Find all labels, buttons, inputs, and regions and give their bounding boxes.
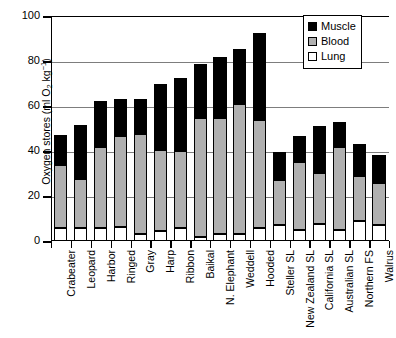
- bar-segment-lung: [273, 225, 286, 241]
- lung-swatch-icon: [308, 52, 317, 61]
- bar-segment-blood: [253, 120, 266, 228]
- bar-segment-blood: [273, 180, 286, 225]
- bar-segment-lung: [353, 221, 366, 241]
- y-axis-tick-label: 0: [34, 234, 40, 246]
- bar-segment-blood: [313, 173, 326, 224]
- bar-segment-blood: [154, 150, 167, 231]
- bar-segment-blood: [233, 104, 246, 234]
- bar-segment-muscle: [353, 144, 366, 176]
- bar-segment-blood: [213, 118, 226, 233]
- bar-segment-lung: [233, 234, 246, 241]
- bar-segment-blood: [293, 162, 306, 230]
- x-axis-tick-label: Steller SL: [284, 250, 296, 296]
- x-axis-tick: [329, 241, 330, 248]
- bar-segment-blood: [134, 134, 147, 234]
- bar-segment-blood: [114, 136, 127, 227]
- y-axis-tick-label: 80: [28, 54, 40, 66]
- x-axis-tick: [389, 241, 390, 248]
- bar-slot: [74, 16, 87, 241]
- bar-segment-lung: [74, 228, 87, 241]
- x-axis-tick-label: Harp: [164, 250, 176, 273]
- x-axis-tick-label: N. Elephant: [224, 250, 236, 305]
- bar-segment-muscle: [194, 64, 207, 118]
- bar-segment-lung: [154, 231, 167, 241]
- x-axis-tick: [290, 241, 291, 248]
- bar-slot: [94, 16, 107, 241]
- x-axis-tick: [309, 241, 310, 248]
- x-axis-tick-label: Baikal: [204, 250, 216, 279]
- x-axis-tick: [230, 241, 231, 248]
- legend-item: Muscle: [308, 19, 356, 34]
- bar-segment-lung: [372, 225, 385, 241]
- x-axis-tick-label: Harbor: [105, 250, 117, 282]
- bar-slot: [213, 16, 226, 241]
- x-axis-tick: [170, 241, 171, 248]
- x-axis-tick-label: Northern FS: [363, 250, 375, 307]
- y-axis-tick-label: 20: [28, 189, 40, 201]
- x-axis-tick-label: Australian SL: [343, 250, 355, 312]
- x-axis-tick-label: New Zealand SL: [304, 250, 316, 328]
- bar-segment-lung: [134, 234, 147, 241]
- bar-slot: [114, 16, 127, 241]
- bar-segment-muscle: [114, 99, 127, 136]
- bar-segment-lung: [313, 224, 326, 241]
- bar-slot: [54, 16, 67, 241]
- y-axis-tick-label: 60: [28, 99, 40, 111]
- oxygen-stores-chart: Oxygen stores (ml O2 kg−1) 020406080100 …: [0, 0, 396, 338]
- bar-segment-muscle: [372, 155, 385, 183]
- x-axis-tick: [369, 241, 370, 248]
- x-axis-tick-label: Walrus: [383, 250, 395, 282]
- bar-slot: [372, 16, 385, 241]
- bar-segment-muscle: [94, 101, 107, 147]
- y-axis-title-prefix: Oxygen stores (ml O: [40, 88, 52, 184]
- bar-segment-blood: [333, 147, 346, 230]
- bar-segment-muscle: [233, 49, 246, 104]
- x-axis-tick: [150, 241, 151, 248]
- bar-segment-blood: [353, 176, 366, 221]
- bar-segment-muscle: [333, 122, 346, 147]
- bar-segment-muscle: [154, 84, 167, 151]
- bar-segment-blood: [174, 151, 187, 228]
- y-axis-tick-label: 40: [28, 144, 40, 156]
- x-axis-tick-label: Leopard: [85, 250, 97, 289]
- bar-segment-lung: [333, 230, 346, 241]
- legend-item: Blood: [308, 34, 356, 49]
- bar-slot: [134, 16, 147, 241]
- x-axis-tick: [349, 241, 350, 248]
- x-axis-tick: [270, 241, 271, 248]
- x-axis-tick-label: Crabeater: [65, 250, 77, 297]
- bar-segment-muscle: [213, 57, 226, 118]
- legend-item-label: Lung: [321, 51, 345, 62]
- x-axis-tick-label: Ringed: [125, 250, 137, 283]
- bar-segment-muscle: [134, 99, 147, 134]
- bar-segment-lung: [54, 228, 67, 241]
- bar-segment-lung: [253, 228, 266, 241]
- bar-slot: [253, 16, 266, 241]
- x-axis-tick: [250, 241, 251, 248]
- blood-swatch-icon: [308, 37, 317, 46]
- legend: Muscle Blood Lung: [303, 15, 362, 69]
- bar-segment-blood: [74, 179, 87, 228]
- bar-segment-muscle: [313, 126, 326, 173]
- x-axis-tick: [91, 241, 92, 248]
- bar-segment-muscle: [253, 33, 266, 119]
- x-axis-tick: [51, 241, 52, 248]
- x-axis-tick: [131, 241, 132, 248]
- bar-segment-muscle: [293, 136, 306, 163]
- muscle-swatch-icon: [308, 22, 317, 31]
- bar-segment-lung: [174, 228, 187, 241]
- bar-slot: [233, 16, 246, 241]
- x-axis-tick: [71, 241, 72, 248]
- x-axis-tick-label: Gray: [144, 250, 156, 273]
- bar-segment-muscle: [54, 135, 67, 165]
- bar-slot: [174, 16, 187, 241]
- x-axis-tick-label: Hooded: [264, 250, 276, 287]
- x-axis-tick: [210, 241, 211, 248]
- bar-segment-blood: [54, 165, 67, 228]
- bar-slot: [273, 16, 286, 241]
- x-axis-tick-label: California SL: [323, 250, 335, 310]
- bar-segment-lung: [94, 228, 107, 241]
- y-axis-tick-label: 100: [22, 9, 40, 21]
- x-axis: CrabeaterLeopardHarborRingedGrayHarpRibb…: [51, 241, 389, 337]
- x-axis-tick-label: Weddell: [244, 250, 256, 288]
